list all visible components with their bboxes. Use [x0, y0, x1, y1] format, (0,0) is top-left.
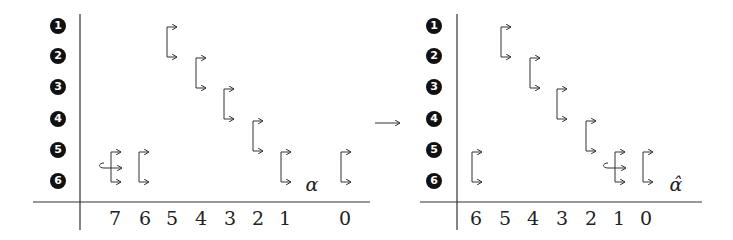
- right-column-label: 0: [636, 208, 656, 228]
- left-column-label: 4: [191, 208, 211, 228]
- right-row-marker-3: 3: [426, 79, 442, 95]
- left-bracket-1: [281, 152, 291, 182]
- right-row-marker-5: 5: [426, 142, 442, 158]
- left-row-marker-1: 1: [50, 18, 66, 34]
- right-row-marker-4: 4: [426, 111, 442, 127]
- right-column-label: 2: [581, 208, 601, 228]
- right-bracket-5: [501, 27, 511, 57]
- right-column-label: 3: [552, 208, 572, 228]
- right-bracket-0: [643, 152, 653, 182]
- left-column-label: 3: [220, 208, 240, 228]
- right-bracket-2: [586, 121, 596, 151]
- left-row-marker-2: 2: [50, 48, 66, 64]
- right-column-label: 5: [495, 208, 515, 228]
- left-column-label: 6: [135, 208, 155, 228]
- left-column-label: 2: [248, 208, 268, 228]
- right-bracket-6: [472, 152, 482, 182]
- left-column-label: 5: [162, 208, 182, 228]
- right-row-marker-6: 6: [426, 173, 442, 189]
- right-row-marker-1: 1: [426, 18, 442, 34]
- right-bracket-3: [557, 89, 567, 119]
- left-row-marker-5: 5: [50, 142, 66, 158]
- left-crossed-bracket-7: [100, 152, 123, 182]
- alpha-hat-symbol: α̂: [666, 174, 686, 194]
- right-row-marker-2: 2: [426, 48, 442, 64]
- alpha-symbol: α: [302, 174, 322, 194]
- left-bracket-4: [196, 58, 206, 88]
- right-column-label: 4: [523, 208, 543, 228]
- diagram-canvas: [0, 0, 733, 240]
- right-crossed-bracket-1: [604, 152, 627, 182]
- left-bracket-5: [167, 27, 177, 57]
- left-bracket-6: [139, 152, 149, 182]
- right-column-label: 1: [609, 208, 629, 228]
- right-bracket-4: [530, 58, 540, 88]
- left-row-marker-6: 6: [50, 173, 66, 189]
- left-bracket-0: [341, 152, 351, 182]
- left-bracket-3: [224, 89, 234, 119]
- left-row-marker-3: 3: [50, 79, 66, 95]
- left-column-label: 7: [105, 208, 125, 228]
- left-column-label: 0: [335, 208, 355, 228]
- left-column-label: 1: [275, 208, 295, 228]
- left-bracket-2: [253, 121, 263, 151]
- right-column-label: 6: [466, 208, 486, 228]
- left-row-marker-4: 4: [50, 111, 66, 127]
